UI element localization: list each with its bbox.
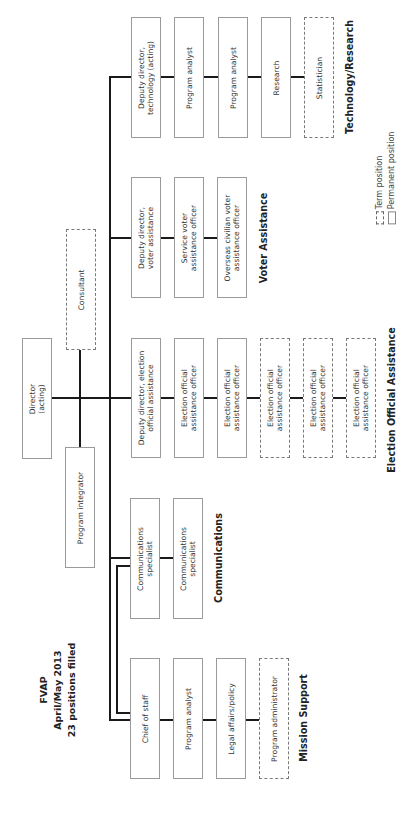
- division-label-voter: Voter Assistance: [258, 193, 269, 284]
- voter-position-2: Service voter assistance officer: [174, 177, 204, 298]
- connector-comm-chief-bottom: [116, 712, 131, 714]
- solid-box-icon: [388, 211, 396, 224]
- mission-position-3: Legal affairs/policy: [216, 658, 246, 779]
- connector-comm-chief-top: [116, 565, 131, 567]
- tech-position-5: Statistician: [304, 17, 334, 138]
- mission-position-4: Program administrator: [259, 658, 289, 779]
- director-box: Director (acting): [22, 338, 52, 459]
- legend-permanent: Permanent position: [386, 132, 398, 225]
- division-label-tech: Technology/Research: [344, 20, 355, 134]
- division-label-mission: Mission Support: [298, 674, 309, 762]
- position-title: Chief of staff: [141, 660, 150, 778]
- position-title: Deputy director, election official assis…: [137, 339, 155, 457]
- connector-consultant-integrator: [79, 350, 81, 447]
- position-title: Program administrator: [270, 660, 279, 778]
- tech-position-4: Research: [261, 17, 291, 138]
- connector-director-bus: [51, 397, 132, 399]
- voter-position-3: Overseas civilian voter assistance offic…: [217, 177, 247, 298]
- position-title: Research: [272, 19, 281, 137]
- mission-position-2: Program analyst: [173, 658, 203, 779]
- chart-title: FVAP April/May 2013 23 positions filled: [37, 643, 79, 737]
- title-count: 23 positions filled: [65, 643, 79, 737]
- election-position-1: Deputy director, election official assis…: [131, 338, 161, 458]
- title-date: April/May 2013: [51, 643, 65, 737]
- voter-position-1: Deputy director, voter assistance: [131, 177, 161, 298]
- position-title: Communications specialist: [179, 500, 197, 618]
- connector-bus-tech: [109, 76, 131, 78]
- position-title: Election official assistance officer: [309, 339, 327, 457]
- election-position-4: Election official assistance officer: [260, 338, 290, 458]
- election-position-3: Election official assistance officer: [217, 338, 247, 458]
- connector-bus-comm: [109, 557, 131, 559]
- position-title: Program analyst: [184, 660, 193, 778]
- program-integrator-box: Program integrator: [65, 447, 95, 568]
- position-title: Statistician: [315, 19, 324, 137]
- connector-bus-voter: [109, 237, 131, 239]
- position-title: Service voter assistance officer: [180, 179, 198, 297]
- tech-position-3: Program analyst: [218, 17, 248, 138]
- legend-term: Term position: [374, 132, 386, 225]
- election-position-5: Election official assistance officer: [303, 338, 333, 458]
- division-label-comm: Communications: [213, 513, 224, 603]
- position-title: Program analyst: [185, 19, 194, 137]
- comm-position-2: Communications specialist: [173, 498, 203, 619]
- position-title: Deputy director, voter assistance: [137, 179, 155, 297]
- tech-position-2: Program analyst: [174, 17, 204, 138]
- tech-position-1: Deputy director, technology (acting): [131, 17, 161, 138]
- dashed-box-icon: [376, 211, 384, 224]
- position-title: Program analyst: [229, 19, 238, 137]
- position-title: Election official assistance officer: [352, 339, 370, 457]
- connector-comm-chain: [160, 557, 173, 559]
- mission-position-1: Chief of staff: [130, 658, 160, 779]
- director-label: Director (acting): [28, 340, 46, 458]
- position-title: Election official assistance officer: [223, 339, 241, 457]
- position-title: Election official assistance officer: [266, 339, 284, 457]
- connector-comm-chief-v: [116, 565, 118, 714]
- connector-main-bus: [109, 76, 111, 721]
- position-title: Legal affairs/policy: [227, 660, 236, 778]
- position-title: Communications specialist: [136, 500, 154, 618]
- position-title: Election official assistance officer: [180, 339, 198, 457]
- position-title: Overseas civilian voter assistance offic…: [223, 179, 241, 297]
- program-integrator-label: Program integrator: [76, 449, 85, 567]
- election-position-6: Election official assistance officer: [346, 338, 376, 458]
- consultant-label: Consultant: [77, 231, 86, 349]
- election-position-2: Election official assistance officer: [174, 338, 204, 458]
- legend: Term position Permanent position: [374, 132, 398, 225]
- position-title: Deputy director, technology (acting): [137, 19, 155, 137]
- title-org: FVAP: [37, 643, 51, 737]
- consultant-box: Consultant: [66, 229, 96, 350]
- division-label-election: Election Official Assistance: [386, 327, 397, 473]
- connector-bus-chief: [109, 719, 131, 721]
- comm-position-1: Communications specialist: [130, 498, 160, 619]
